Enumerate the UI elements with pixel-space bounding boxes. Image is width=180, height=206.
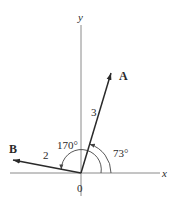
vector-diagram: y x 0 A B 3 2 73° 170° (0, 0, 180, 206)
vector-a-label: A (119, 69, 128, 83)
vector-b-magnitude: 2 (43, 149, 49, 161)
angle-arc-73 (90, 144, 111, 173)
angle-label-73: 73° (113, 147, 128, 159)
vector-b-label: B (9, 142, 17, 156)
vector-a-magnitude: 3 (91, 106, 97, 118)
origin-label: 0 (77, 182, 83, 194)
y-axis-label: y (77, 11, 83, 23)
vector-b (13, 160, 81, 173)
angle-label-170: 170° (57, 139, 78, 151)
x-axis-label: x (161, 167, 167, 179)
